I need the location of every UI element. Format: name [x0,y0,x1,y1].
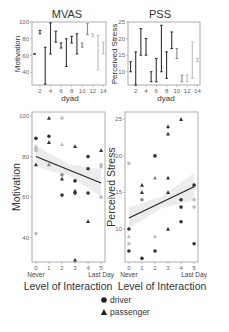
passenger-point [47,140,51,144]
y-tick-label: 10 [118,69,125,75]
x-tick-label: 14 [194,88,201,94]
pss-title: PSS [149,8,171,20]
passenger-point [86,219,90,223]
confidence-band [36,146,101,197]
dyad-range [60,43,63,48]
x-tick-label: 2 [153,265,157,271]
dyad-range [91,34,94,37]
figure: MVAS 406080100 2468101214 dyad Motivatio… [0,0,229,332]
dyad-range [76,34,79,54]
passenger-point [166,227,170,231]
x-tick-label: 12 [184,88,191,94]
legend-circle-icon [101,297,107,303]
dyad-range [145,39,148,56]
mvas-y-label: Motivation [13,36,22,72]
pss-x-axis: 2468101214 [134,85,201,94]
mvas-panel: MVAS 406080100 2468101214 dyad Motivatio… [13,8,107,103]
driver-point [73,179,77,183]
dyad-range [186,75,189,82]
legend-passenger-label: passenger [110,307,150,317]
driver-point [192,183,196,187]
passenger-point [73,258,77,262]
dyad-range [54,31,57,42]
x-tick-label: 1 [140,265,144,271]
x-tick-sublabel: Never [27,271,45,278]
driver-point [127,249,131,253]
driver-point [127,227,131,231]
driver-point [192,242,196,246]
x-tick-sublabel: Last Day [88,271,114,279]
pss-y-axis: 10152025 [118,19,128,75]
mvas-title: MVAS [52,8,82,20]
legend: driver passenger [101,295,150,317]
dyad-range [196,58,199,61]
passenger-point [140,190,144,194]
stress-scatter-panel: 10152025 0Never12345Last Day Level of In… [105,112,208,292]
driver-point [47,135,51,139]
passenger-point [166,124,170,128]
passenger-point [60,177,64,181]
dyad-range [129,62,132,72]
driver-point [60,193,64,197]
mvas-x-axis: 2468101214 [38,85,107,94]
driver-point [34,149,38,153]
dyad-range [181,75,184,82]
x-tick-label: 1 [47,265,51,271]
driver-point [127,161,131,165]
driver-point [140,257,144,261]
y-tick-label: 40 [22,69,29,75]
y-tick-label: 100 [19,19,30,25]
dyad-range [49,23,52,54]
confidence-band [129,173,194,229]
passenger-point [73,144,77,148]
passenger-point [166,132,170,136]
driver-point [192,205,196,209]
driver-point [60,173,64,177]
stress-ci-band [129,173,194,229]
passenger-point [99,148,103,152]
mvas-x-label: dyad [61,94,78,103]
driver-point [99,165,103,169]
legend-triangle-icon [101,309,107,315]
passenger-point [47,116,51,120]
dyad-range [102,42,105,54]
dyad-range [86,24,89,35]
x-tick-label: 3 [166,265,170,271]
dyad-range [191,42,194,78]
passenger-point [166,176,170,180]
y-tick-label: 100 [19,113,30,119]
y-tick-label: 25 [115,116,122,122]
passenger-point [60,142,64,146]
pss-dumbbells [129,25,198,85]
dyad-range [176,49,179,59]
driver-point [73,191,77,195]
y-tick-label: 60 [22,53,29,59]
motivation-ci-band [36,146,101,197]
dyad-range [81,43,84,47]
pss-frame [128,22,200,85]
dyad-range [140,29,143,56]
driver-point [153,249,157,253]
pss-panel: PSS 10152025 2468101214 dyad Perceived S… [110,8,201,103]
legend-driver-label: driver [110,295,131,305]
driver-point [99,195,103,199]
y-tick-label: 40 [22,235,29,241]
dyad-range [165,52,168,79]
dyad-range [150,72,153,82]
driver-point [192,198,196,202]
mvas-frame [32,22,106,85]
driver-point [86,167,90,171]
driver-point [179,220,183,224]
x-tick-label: 2 [60,265,64,271]
x-tick-sublabel: Last Day [181,271,207,279]
motivation-y-label: Motivation [10,163,22,211]
x-tick-label: 2 [38,88,42,94]
dyad-range [155,58,158,81]
stress-x-axis: 0Never12345Last Day [120,262,207,279]
x-tick-label: 3 [73,265,77,271]
dyad-range [65,39,68,67]
driver-point [86,191,90,195]
dyad-range [134,52,137,85]
x-tick-label: 2 [134,88,138,94]
y-tick-label: 60 [22,194,29,200]
